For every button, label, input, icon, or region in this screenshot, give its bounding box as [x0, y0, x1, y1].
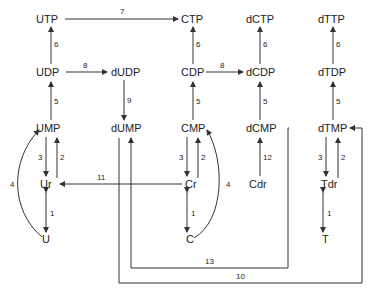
node-dcdp: dCDP [246, 66, 275, 78]
edge-label-5: 5 [54, 97, 59, 106]
edge-label-3: 3 [179, 153, 184, 162]
edge-label-13: 13 [205, 257, 214, 266]
node-dctp: dCTP [246, 13, 274, 25]
edge-label-6: 6 [263, 40, 268, 49]
node-utp: UTP [36, 13, 58, 25]
diagram-canvas: UTP CTP dCTP dTTP UDP dUDP CDP dCDP dTDP… [0, 0, 369, 294]
edge-label-3: 3 [38, 153, 43, 162]
node-u: U [42, 233, 50, 245]
node-c: C [186, 233, 194, 245]
node-dudp: dUDP [111, 66, 140, 78]
edge-label-10: 10 [236, 272, 245, 281]
node-ump: UMP [36, 122, 60, 134]
edge-label-11: 11 [97, 173, 106, 182]
edge-label-7: 7 [120, 7, 125, 16]
node-dump: dUMP [111, 122, 142, 134]
node-t: T [322, 233, 329, 245]
node-cmp: CMP [181, 122, 205, 134]
edge-label-3: 3 [318, 153, 323, 162]
edge-label-9: 9 [127, 96, 132, 105]
node-tdr: Tdr [321, 178, 338, 190]
edge-label-4: 4 [10, 180, 15, 189]
edge-label-2: 2 [341, 153, 346, 162]
edge-label-5: 5 [263, 97, 268, 106]
edge-label-8: 8 [220, 61, 225, 70]
edge-label-12: 12 [263, 153, 272, 162]
node-ur: Ur [40, 178, 52, 190]
node-dttp: dTTP [318, 13, 345, 25]
node-dcmp: dCMP [246, 122, 277, 134]
edge-label-2: 2 [60, 153, 65, 162]
edge-label-5: 5 [196, 97, 201, 106]
edge-label-6: 6 [54, 40, 59, 49]
edge-label-6: 6 [336, 40, 341, 49]
edge-label-2: 2 [201, 153, 206, 162]
edge-label-1: 1 [50, 209, 55, 218]
node-dtmp: dTMP [318, 122, 347, 134]
edge-label-6: 6 [196, 40, 201, 49]
pyrimidine-pathway-diagram: UTP CTP dCTP dTTP UDP dUDP CDP dCDP dTDP… [0, 0, 369, 294]
edge-label-1: 1 [327, 209, 332, 218]
edge-label-5: 5 [336, 97, 341, 106]
node-udp: UDP [36, 66, 59, 78]
node-ctp: CTP [181, 13, 203, 25]
node-cdp: CDP [181, 66, 204, 78]
node-cdr: Cdr [249, 178, 267, 190]
edge-label-8: 8 [83, 61, 88, 70]
edge-label-4: 4 [226, 180, 231, 189]
edge-label-1: 1 [191, 209, 196, 218]
node-dtdp: dTDP [318, 66, 346, 78]
node-cr: Cr [185, 178, 197, 190]
